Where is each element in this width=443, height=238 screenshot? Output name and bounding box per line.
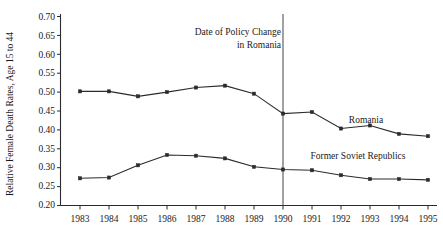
x-axis-ticks: 1983198419851986198719881989199019911992… <box>71 206 438 224</box>
data-point-marker <box>339 174 342 177</box>
y-tick-label: 0.60 <box>38 50 55 60</box>
data-point-marker <box>252 92 255 95</box>
y-tick-label: 0.70 <box>38 12 55 22</box>
x-tick-label: 1983 <box>71 214 90 224</box>
x-tick-label: 1995 <box>419 214 438 224</box>
x-tick-label: 1993 <box>361 214 380 224</box>
y-tick-label: 0.25 <box>38 181 55 191</box>
x-tick-label: 1992 <box>332 214 351 224</box>
data-series-group <box>78 84 429 181</box>
chart-container: Relative Female Death Rates, Age 15 to 4… <box>0 0 443 238</box>
data-point-marker <box>397 177 400 180</box>
y-tick-label: 0.40 <box>38 125 55 135</box>
data-point-marker <box>78 90 81 93</box>
series-label-former-soviet-republics: Former Soviet Republics <box>311 151 406 161</box>
data-point-marker <box>107 90 110 93</box>
data-point-marker <box>136 95 139 98</box>
y-tick-label: 0.35 <box>38 144 55 154</box>
x-tick-label: 1986 <box>158 214 177 224</box>
data-point-marker <box>223 84 226 87</box>
data-point-marker <box>426 135 429 138</box>
data-point-marker <box>368 177 371 180</box>
y-tick-label: 0.45 <box>38 106 55 116</box>
data-point-marker <box>310 110 313 113</box>
y-axis-label: Relative Female Death Rates, Age 15 to 4… <box>5 32 15 196</box>
x-tick-label: 1994 <box>390 214 409 224</box>
policy-annotation-line-2: in Romania <box>237 40 282 50</box>
series-label-romania: Romania <box>349 115 384 125</box>
data-point-marker <box>252 165 255 168</box>
x-tick-label: 1984 <box>100 214 119 224</box>
x-tick-label: 1987 <box>187 214 206 224</box>
data-point-marker <box>165 153 168 156</box>
y-tick-label: 0.20 <box>38 200 55 210</box>
series-romania <box>78 84 429 138</box>
y-tick-label: 0.55 <box>38 68 55 78</box>
data-point-marker <box>339 127 342 130</box>
data-point-marker <box>78 177 81 180</box>
x-tick-label: 1985 <box>129 214 148 224</box>
data-point-marker <box>136 164 139 167</box>
y-tick-label: 0.50 <box>38 87 55 97</box>
data-point-marker <box>426 178 429 181</box>
x-tick-label: 1988 <box>216 214 235 224</box>
y-tick-label: 0.65 <box>38 31 55 41</box>
data-point-marker <box>194 86 197 89</box>
data-point-marker <box>281 168 284 171</box>
data-point-marker <box>397 132 400 135</box>
y-axis-tick-labels: 0.70 0.65 0.60 0.55 0.50 0.45 0.40 0.35 … <box>38 12 55 210</box>
line-chart-svg: Relative Female Death Rates, Age 15 to 4… <box>0 0 443 238</box>
data-point-marker <box>107 176 110 179</box>
data-point-marker <box>223 157 226 160</box>
data-point-marker <box>194 154 197 157</box>
data-point-marker <box>281 112 284 115</box>
policy-annotation-line-1: Date of Policy Change <box>195 27 281 37</box>
x-tick-label: 1991 <box>303 214 322 224</box>
data-point-marker <box>310 169 313 172</box>
data-point-marker <box>165 91 168 94</box>
y-tick-label: 0.30 <box>38 162 55 172</box>
x-tick-label: 1990 <box>274 214 293 224</box>
x-tick-label: 1989 <box>245 214 264 224</box>
